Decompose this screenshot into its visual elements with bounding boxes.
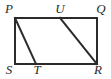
vertex-label-p: P <box>2 2 16 15</box>
diagonal-PT <box>15 18 36 64</box>
geometry-figure: P U Q S T R <box>0 0 111 79</box>
vertex-label-s: S <box>2 63 16 76</box>
diagonal-UR <box>60 18 97 64</box>
vertex-label-u: U <box>53 2 67 15</box>
vertex-label-q: Q <box>94 2 108 15</box>
vertex-label-r: R <box>91 63 105 76</box>
vertex-label-t: T <box>30 63 44 76</box>
